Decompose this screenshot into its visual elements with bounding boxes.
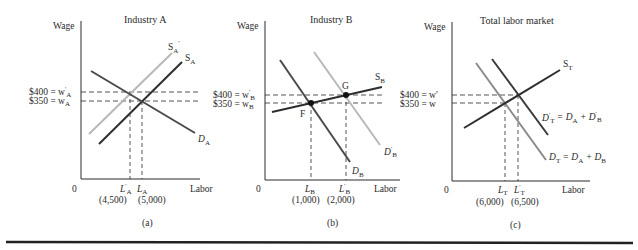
panel-a-supply-label: SA	[185, 53, 195, 66]
panel-b-supply-label: SB	[375, 72, 385, 85]
bottom-rule	[6, 242, 633, 243]
panel-c-xtick1-value: (6,000)	[476, 197, 504, 208]
panel-c-demand-curve	[476, 63, 546, 160]
panel-b-point-f	[308, 100, 314, 106]
panel-a-supply-prime-label: SA′	[168, 39, 180, 55]
panel-b-point-f-label: F	[300, 109, 305, 119]
panel-a-xtick1-value: (4,500)	[99, 195, 127, 206]
panel-b-demand-prime-label: D′B	[383, 146, 397, 159]
panel-b-point-g-label: G	[342, 81, 349, 91]
panel-c-xtick2: L′T	[513, 184, 526, 197]
panel-a: Industry A Wage SA′ SA DA $400 = w′A $35…	[29, 14, 214, 229]
figure: Industry A Wage SA′ SA DA $400 = w′A $35…	[0, 0, 638, 250]
panel-b-demand-prime-curve	[314, 52, 380, 145]
panel-b-caption: (b)	[327, 218, 338, 229]
panel-c-ytick-lo: $350 = w	[400, 99, 436, 109]
panel-c-title: Total labor market	[480, 15, 554, 26]
panel-b-xlabel: Labor	[374, 184, 398, 194]
panel-a-title: Industry A	[124, 14, 167, 25]
panel-a-supply-curve	[99, 62, 182, 144]
panel-c-xtick1: LT	[497, 185, 508, 197]
panel-a-ylabel: Wage	[53, 21, 74, 31]
panel-b: Industry B Wage F G SB DB D′B $400 = w′B…	[213, 14, 400, 229]
panel-c-origin: 0	[444, 185, 449, 195]
panel-a-demand-label: DA	[197, 134, 210, 147]
panel-c: Total labor market Wage ST D′T = DA + D′…	[400, 15, 606, 231]
panel-a-caption: (a)	[142, 218, 153, 229]
panel-b-xtick2-value: (2,000)	[327, 195, 355, 206]
panel-c-demand-label: DT = DA + DB	[548, 152, 606, 165]
panel-b-xtick1-value: (1,000)	[292, 195, 320, 206]
panel-b-ylabel: Wage	[237, 21, 258, 31]
panel-b-ytick-lo: $350 = wB	[213, 99, 254, 111]
panel-a-xlabel: Labor	[190, 184, 214, 194]
panel-c-ylabel: Wage	[424, 22, 445, 32]
panel-c-caption: (c)	[510, 220, 521, 231]
panel-c-supply-label: ST	[563, 59, 573, 72]
panel-b-demand-label: DB	[351, 166, 364, 179]
panel-b-origin: 0	[256, 184, 261, 194]
panel-b-point-g	[343, 92, 349, 98]
panel-a-ytick-lo: $350 = wA	[29, 96, 70, 108]
panel-a-origin: 0	[72, 184, 77, 194]
panel-c-xtick2-value: (6,500)	[511, 197, 539, 208]
panel-b-demand-curve	[280, 60, 350, 162]
panel-c-demand-prime-label: D′T = DA + D′B	[541, 111, 602, 125]
panel-b-title: Industry B	[310, 14, 353, 25]
panel-a-xtick2-value: (5,000)	[138, 195, 166, 206]
panel-c-xlabel: Labor	[562, 185, 586, 195]
panel-b-supply-curve	[272, 87, 382, 112]
